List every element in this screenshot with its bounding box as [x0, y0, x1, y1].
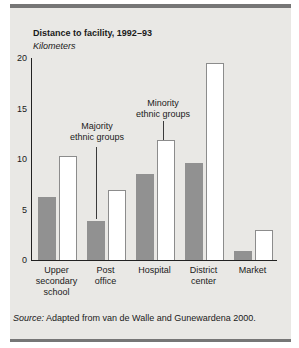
bar-hospital-minority-ethnic-groups [157, 140, 175, 260]
source-note: Source: Adapted from van de Walle and Gu… [13, 313, 285, 324]
annotation-line: Minority [118, 98, 208, 109]
annotation-majority-ethnic-groups: Majorityethnic groups [52, 121, 142, 143]
bar-hospital-majority-ethnic-groups [136, 174, 154, 260]
bar-post-office-majority-ethnic-groups [87, 221, 105, 260]
bar-upper-secondary-school-minority-ethnic-groups [59, 156, 77, 260]
bar-market-minority-ethnic-groups [255, 230, 273, 260]
bar-upper-secondary-school-majority-ethnic-groups [38, 197, 56, 260]
y-tick-label-15: 15 [7, 104, 27, 114]
x-label-market: Market [218, 265, 288, 276]
top-rule [10, 4, 291, 8]
bar-district-center-majority-ethnic-groups [185, 163, 203, 260]
x-label-line: office [71, 276, 141, 287]
y-tick-label-5: 5 [7, 205, 27, 215]
bar-post-office-minority-ethnic-groups [108, 190, 126, 260]
figure-page: Distance to facility, 1992–93 Kilometers… [0, 0, 299, 348]
bar-market-majority-ethnic-groups [234, 251, 252, 260]
annotation-minority-ethnic-groups: Minorityethnic groups [118, 98, 208, 120]
y-tick-label-0: 0 [7, 255, 27, 265]
bottom-rule [10, 339, 291, 342]
figure-panel: Distance to facility, 1992–93 Kilometers… [10, 4, 291, 342]
x-label-line: school [22, 287, 92, 298]
y-tick-label-10: 10 [7, 154, 27, 164]
figure-title: Distance to facility, 1992–93 [33, 28, 152, 38]
annotation-line: ethnic groups [52, 132, 142, 143]
y-axis-unit-label: Kilometers [33, 41, 76, 51]
y-tick-label-20: 20 [7, 53, 27, 63]
annotation-line: ethnic groups [118, 109, 208, 120]
source-prefix: Source: [13, 313, 44, 323]
bar-district-center-minority-ethnic-groups [206, 63, 224, 260]
x-label-line: center [169, 276, 239, 287]
source-text: Adapted from van de Walle and Gunewarden… [46, 313, 256, 323]
bar-chart: 05101520UppersecondaryschoolPostofficeHo… [31, 58, 287, 306]
annotation-leader-line [163, 121, 164, 140]
x-label-line: Market [218, 265, 288, 276]
annotation-leader-line [96, 147, 97, 219]
annotation-line: Majority [52, 121, 142, 132]
plot-area [31, 58, 277, 261]
